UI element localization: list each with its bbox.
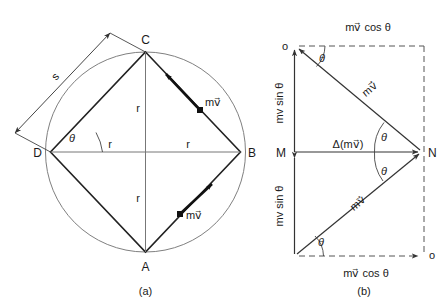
point-label-a: A (141, 260, 149, 274)
figure-canvas: C B A D r r r r s θ mv⃗ mv⃗ (a) (0, 0, 446, 305)
side-dimension-arrow (15, 33, 110, 133)
momentum-dot-upper (197, 107, 203, 113)
angle-label-theta-d: θ (69, 132, 75, 144)
radius-label-bottom: r (136, 192, 140, 204)
point-label-n: N (428, 146, 437, 160)
momentum-vector-upper (166, 74, 203, 113)
left-lower-component-label: mv sin θ (273, 186, 285, 227)
caption-a: (a) (139, 285, 152, 297)
angle-label-theta-top: θ (319, 52, 325, 64)
delta-label: Δ(mv⃗) (333, 138, 364, 150)
panel-a: C B A D r r r r s θ mv⃗ mv⃗ (a) (15, 33, 256, 297)
momentum-label-in: mv⃗ (359, 79, 379, 99)
radius-label-right: r (186, 138, 190, 150)
point-label-m: M (276, 146, 286, 160)
bottom-component-label: mv⃗ cos θ (343, 267, 389, 279)
angle-label-theta-n-upper: θ (381, 131, 387, 143)
radius-label-left: r (108, 138, 112, 150)
angle-arc-theta-d (96, 133, 103, 153)
left-upper-component-label: mv sin θ (273, 83, 285, 124)
momentum-label-lower: mv⃗ (186, 209, 202, 221)
origin-label-top: o (282, 40, 288, 52)
momentum-dot-lower (177, 211, 183, 217)
panel-b: mv⃗ cos θ mv⃗ cos θ mv sin θ mv sin θ Δ(… (273, 21, 437, 297)
top-component-label: mv⃗ cos θ (345, 21, 391, 33)
momentum-vector-in (299, 49, 420, 150)
angle-label-theta-n-lower: θ (381, 165, 387, 177)
angle-label-theta-bottom: θ (318, 236, 324, 248)
side-length-label: s (49, 70, 62, 83)
point-label-b: B (248, 146, 256, 160)
radius-label-top: r (136, 102, 140, 114)
point-label-d: D (33, 146, 42, 160)
origin-label-bottom: o (429, 249, 435, 261)
caption-b: (b) (357, 285, 370, 297)
momentum-arrow-upper (166, 74, 200, 110)
momentum-label-upper: mv⃗ (205, 96, 221, 108)
point-label-c: C (141, 33, 150, 47)
physics-figure: C B A D r r r r s θ mv⃗ mv⃗ (a) (0, 0, 446, 305)
